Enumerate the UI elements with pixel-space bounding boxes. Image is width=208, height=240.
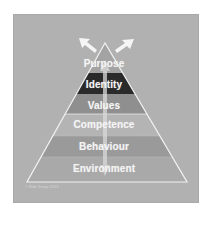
copyright-text: © Bob Group 2013: [25, 184, 58, 189]
label-purpose: Purpose: [0, 58, 208, 70]
label-values: Values: [0, 100, 208, 112]
label-environment: Environment: [0, 163, 208, 175]
label-identity: Identity: [0, 79, 208, 91]
arrow-up-right-icon: [115, 39, 134, 53]
label-behaviour: Behaviour: [0, 141, 208, 153]
label-competence: Competence: [0, 119, 208, 131]
arrow-up-left-icon: [79, 38, 97, 53]
